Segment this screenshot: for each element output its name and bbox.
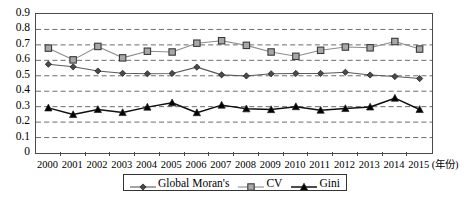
x-tick-mark [85, 152, 86, 156]
y-tick-label: 0.5 [0, 69, 30, 81]
x-axis-title: (年份) [432, 159, 459, 170]
diamond-marker-icon [130, 178, 156, 188]
chart-legend: Global Moran'sCVGini [123, 174, 347, 191]
legend-item[interactable]: CV [238, 177, 282, 189]
legend-item[interactable]: Gini [291, 177, 339, 189]
y-tick-label: 0.7 [0, 38, 30, 50]
legend-item[interactable]: Global Moran's [130, 177, 229, 189]
x-tick-mark [233, 152, 234, 156]
legend-label: Gini [319, 177, 339, 189]
x-tick-mark [307, 152, 308, 156]
y-tick-label: 0.4 [0, 84, 30, 96]
x-tick-mark [382, 152, 383, 156]
x-tick-mark [357, 152, 358, 156]
x-tick-mark [208, 152, 209, 156]
y-tick-label: 0 [0, 146, 30, 158]
y-tick-label: 0.6 [0, 53, 30, 65]
square-marker-icon [238, 178, 264, 188]
legend-label: CV [266, 177, 282, 189]
y-tick-label: 0.3 [0, 100, 30, 112]
x-tick-mark [134, 152, 135, 156]
x-tick-mark [332, 152, 333, 156]
x-tick-mark [184, 152, 185, 156]
legend-label: Global Moran's [158, 177, 229, 189]
y-tick-label: 0.9 [0, 7, 30, 19]
x-tick-mark [60, 152, 61, 156]
x-tick-mark [283, 152, 284, 156]
y-tick-label: 0.1 [0, 131, 30, 143]
x-tick-mark [258, 152, 259, 156]
y-tick-label: 0.2 [0, 115, 30, 127]
chart-figure: 0.90.80.70.60.50.40.30.20.10 20002001200… [0, 0, 469, 202]
x-tick-mark [406, 152, 407, 156]
plot-area [35, 13, 433, 154]
x-tick-label: 2015 [405, 159, 433, 170]
x-tick-mark [109, 152, 110, 156]
data-series-layer [36, 14, 432, 153]
x-tick-mark [159, 152, 160, 156]
triangle-marker-icon [291, 178, 317, 188]
y-tick-label: 0.8 [0, 22, 30, 34]
